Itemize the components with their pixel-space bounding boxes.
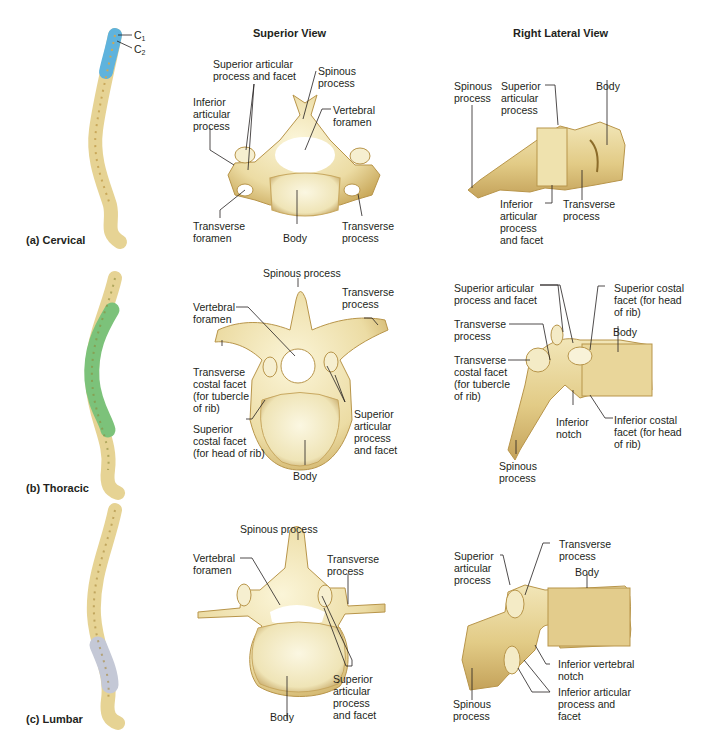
thoracic-lat-transverse-process-label: Transverse process bbox=[454, 318, 506, 342]
cervical-sup-transverse-process-label: Transverse process bbox=[342, 220, 394, 244]
lumbar-sup-superior-articular-label: Superior articular process and facet bbox=[333, 673, 376, 721]
thoracic-sup-body-label: Body bbox=[293, 470, 317, 482]
lumbar-lat-transverse-process-label: Transverse process bbox=[559, 538, 611, 562]
cervical-sup-vertebral-foramen-label: Vertebral foramen bbox=[333, 104, 375, 128]
cervical-lat-spinous-label: Spinous process bbox=[454, 80, 492, 104]
thoracic-lat-superior-costal-label: Superior costal facet (for head of rib) bbox=[614, 282, 684, 318]
lumbar-sup-spinous-label: Spinous process bbox=[240, 523, 318, 535]
thoracic-sup-transverse-process-label: Transverse process bbox=[342, 286, 394, 310]
lumbar-sup-body-label: Body bbox=[270, 711, 294, 723]
thoracic-lat-superior-articular-label: Superior articular process and facet bbox=[454, 282, 537, 306]
row-title-cervical: (a) Cervical bbox=[26, 234, 85, 246]
spine-label-c2: C2 bbox=[134, 43, 146, 59]
spine-cervical bbox=[95, 35, 120, 242]
thoracic-sup-vertebral-foramen-label: Vertebral foramen bbox=[193, 301, 235, 325]
thoracic-lat-body-label: Body bbox=[613, 326, 637, 338]
row-title-thoracic: (b) Thoracic bbox=[26, 482, 89, 494]
thoracic-sup-spinous-label: Spinous process bbox=[263, 267, 341, 279]
thoracic-lat-transverse-costal-label: Transverse costal facet (for tubercle of… bbox=[454, 354, 510, 402]
cervical-sup-superior-articular-label: Superior articular process and facet bbox=[213, 58, 296, 82]
lumbar-lat-spinous-label: Spinous process bbox=[453, 698, 491, 722]
row-title-lumbar: (c) Lumbar bbox=[26, 713, 83, 725]
thoracic-sup-transverse-costal-label: Transverse costal facet (for tubercle of… bbox=[193, 366, 249, 414]
lumbar-lat-inferior-vertebral-notch-label: Inferior vertebral notch bbox=[558, 658, 634, 682]
cervical-sup-spinous-label: Spinous process bbox=[318, 65, 356, 89]
thoracic-sup-superior-costal-label: Superior costal facet (for head of rib) bbox=[193, 423, 265, 459]
cervical-sup-inferior-articular-label: Inferior articular process bbox=[193, 96, 230, 132]
cervical-lateral-vertebra bbox=[468, 122, 625, 198]
cervical-lat-superior-articular-label: Superior articular process bbox=[501, 80, 541, 116]
lumbar-lat-superior-articular-label: Superior articular process bbox=[454, 550, 494, 586]
spine-thoracic bbox=[92, 278, 118, 493]
cervical-sup-body-label: Body bbox=[283, 232, 307, 244]
spine-lumbar bbox=[94, 510, 118, 723]
thoracic-lat-spinous-label: Spinous process bbox=[499, 460, 537, 484]
cervical-sup-transverse-foramen-label: Transverse foramen bbox=[193, 220, 245, 244]
cervical-lat-body-label: Body bbox=[596, 80, 620, 92]
lumbar-lat-inferior-articular-label: Inferior articular process and facet bbox=[558, 686, 631, 722]
lumbar-sup-transverse-process-label: Transverse process bbox=[327, 553, 379, 577]
thoracic-sup-superior-articular-label: Superior articular process and facet bbox=[354, 408, 397, 456]
thoracic-lat-inferior-costal-label: Inferior costal facet (for head of rib) bbox=[614, 414, 682, 450]
cervical-lat-inferior-articular-label: Inferior articular process and facet bbox=[500, 198, 543, 246]
cervical-lat-transverse-process-label: Transverse process bbox=[563, 198, 615, 222]
thoracic-lat-inferior-notch-label: Inferior notch bbox=[556, 416, 589, 440]
lumbar-sup-vertebral-foramen-label: Vertebral foramen bbox=[193, 552, 235, 576]
lumbar-lat-body-label: Body bbox=[575, 566, 599, 578]
